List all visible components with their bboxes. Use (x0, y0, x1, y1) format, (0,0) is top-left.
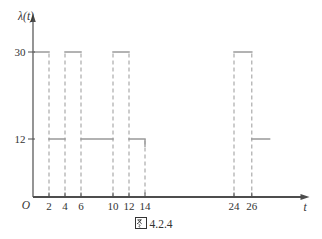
x-axis-ticks: 2461012142426 (46, 193, 258, 213)
x-tick-label-26: 26 (246, 200, 258, 212)
x-tick-label-24: 24 (229, 200, 241, 212)
x-tick-label-6: 6 (78, 200, 84, 212)
axes (30, 14, 309, 201)
figure-caption: 4.2.4 (136, 218, 173, 231)
x-tick-label-10: 10 (108, 200, 120, 212)
x-tick-label-4: 4 (62, 200, 68, 212)
figure-canvas: 2461012142426 3012 λ(t) t O 4.2.4 (0, 0, 322, 239)
x-tick-label-12: 12 (124, 200, 135, 212)
origin-label: O (22, 199, 31, 211)
caption-number: 4.2.4 (150, 218, 173, 230)
y-tick-label-30: 30 (15, 46, 27, 58)
figure-4-2-4: 2461012142426 3012 λ(t) t O 4.2.4 图 (0, 0, 322, 239)
x-axis-label: t (303, 201, 307, 213)
caption-hanzi-dot (139, 226, 140, 227)
y-axis-ticks: 3012 (15, 46, 36, 145)
x-tick-label-2: 2 (46, 200, 52, 212)
y-axis-label: λ(t) (17, 10, 34, 23)
caption-hanzi-dot (139, 225, 140, 226)
dashed-guides (49, 54, 252, 196)
x-axis-arrowhead (301, 194, 310, 200)
x-tick-label-14: 14 (140, 200, 152, 212)
y-tick-label-12: 12 (15, 133, 26, 145)
caption-hanzi-glyph-tu (136, 218, 147, 229)
